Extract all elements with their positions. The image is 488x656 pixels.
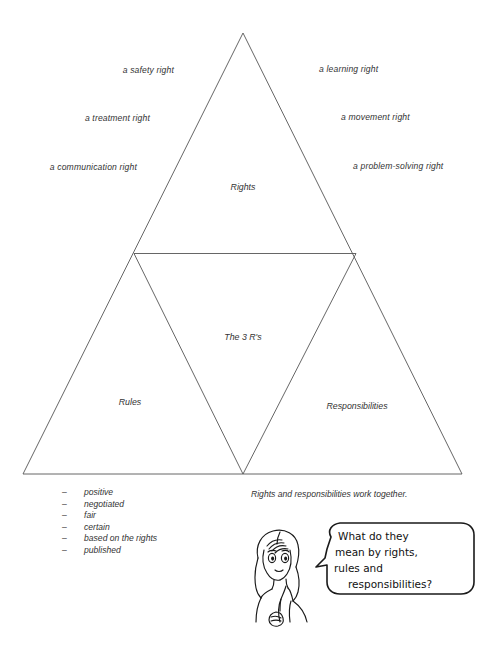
zone-label-rights: Rights (231, 183, 256, 192)
zone-label-responsibilities: Responsibilities (326, 402, 387, 411)
left-label-safety-right: a safety right (123, 66, 174, 75)
list-item-label: fair (84, 510, 96, 522)
list-item-label: negotiated (84, 499, 124, 511)
list-item: – based on the rights (62, 533, 157, 545)
right-label-movement-right: a movement right (341, 113, 410, 122)
dash-bullet-icon: – (62, 487, 84, 499)
list-item-label: certain (84, 522, 110, 534)
inner-left-slant (134, 254, 243, 475)
dash-bullet-icon: – (62, 533, 84, 545)
bubble-line-4: responsibilities? (348, 578, 432, 590)
speech-bubble: What do they mean by rights, rules and r… (316, 523, 474, 594)
left-label-communication-right: a communication right (50, 163, 137, 172)
list-item: – positive (62, 487, 157, 499)
rules-qualities-list: – positive – negotiated – fair – certain… (62, 487, 157, 557)
dash-bullet-icon: – (62, 499, 84, 511)
list-item-label: based on the rights (84, 533, 157, 545)
bubble-line-2: mean by rights, (335, 546, 418, 558)
list-item: – certain (62, 522, 157, 534)
left-label-treatment-right: a treatment right (85, 114, 150, 123)
list-item: – fair (62, 510, 157, 522)
bubble-line-1: What do they (338, 530, 409, 542)
page-root: Rights The 3 R's Rules Responsibilities … (0, 0, 488, 656)
zone-label-the-3-rs: The 3 R's (224, 333, 261, 342)
bubble-line-3: rules and (334, 562, 383, 574)
zone-label-rules: Rules (119, 398, 142, 407)
list-item: – published (62, 545, 157, 557)
list-item-label: positive (84, 487, 113, 499)
illustration-svg: What do they mean by rights, rules and r… (228, 520, 488, 630)
caption-text: Rights and responsibilities work togethe… (251, 489, 407, 499)
illustration-girl-with-speech-bubble: What do they mean by rights, rules and r… (228, 520, 488, 630)
girl-thinking-icon (255, 530, 307, 626)
dash-bullet-icon: – (62, 510, 84, 522)
list-item: – negotiated (62, 499, 157, 511)
dash-bullet-icon: – (62, 522, 84, 534)
right-label-learning-right: a learning right (319, 65, 378, 74)
list-item-label: published (84, 545, 121, 557)
right-label-problem-solving-right: a problem-solving right (353, 162, 443, 171)
dash-bullet-icon: – (62, 545, 84, 557)
inner-right-slant (243, 254, 356, 475)
